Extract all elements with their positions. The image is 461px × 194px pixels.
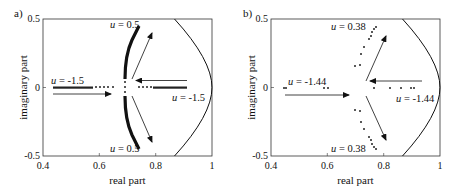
xtick-1: 1 (210, 160, 215, 171)
xtick-0.6: 0.6 (321, 160, 334, 171)
xtick-0.4: 0.4 (265, 160, 278, 171)
ytick-0: 0 (35, 82, 40, 93)
arrow-center-to-top (366, 36, 386, 81)
real-poles-right (138, 86, 187, 89)
arrow-center-to-bottom (366, 96, 386, 140)
chart-panel-b: b) 0.5 0 -0.5 0.4 0.6 0.8 1 real part im… (243, 7, 443, 186)
arrow-center-to-top (132, 33, 152, 79)
xtick-0.8: 0.8 (149, 160, 162, 171)
annotation-top: u = 0.38 (331, 21, 366, 32)
complex-poles-upper (125, 26, 139, 79)
annotation-left: u = -1.5 (51, 75, 84, 86)
xtick-0.8: 0.8 (377, 160, 390, 171)
panel-label-b: b) (243, 7, 253, 20)
arrow-center-to-bottom (132, 96, 152, 142)
xtick-0.4: 0.4 (37, 160, 50, 171)
annotation-bottom: u = 0.38 (331, 143, 366, 154)
y-axis-label: imaginary part (245, 55, 257, 119)
complex-poles-lower (125, 96, 139, 149)
figure: a) 0.5 0 -0.5 0.4 0.6 0.8 1 real part im… (0, 0, 461, 194)
center-poles (124, 81, 126, 93)
complex-poles-upper (354, 26, 377, 67)
xtick-0.6: 0.6 (93, 160, 106, 171)
chart-panel-a: a) 0.5 0 -0.5 0.4 0.6 0.8 1 real part im… (14, 7, 215, 186)
real-poles-left (53, 86, 114, 89)
x-axis-label: real part (337, 174, 373, 186)
annotation-right: u = -1.44 (396, 93, 435, 104)
ytick-0: 0 (263, 82, 268, 93)
annotation-top: u = 0.5 (110, 19, 140, 30)
annotation-bottom: u = 0.5 (110, 143, 140, 154)
xtick-1: 1 (438, 160, 443, 171)
annotation-right: u = -1.5 (172, 92, 205, 103)
panel-label-a: a) (14, 7, 23, 20)
real-poles (283, 87, 415, 89)
unit-circle-arc (403, 19, 441, 156)
y-axis-label: imaginary part (17, 55, 29, 119)
annotation-left: u = -1.44 (288, 76, 327, 87)
ytick-0.5: 0.5 (256, 13, 269, 24)
x-axis-label: real part (109, 174, 145, 186)
ytick-0.5: 0.5 (28, 13, 41, 24)
